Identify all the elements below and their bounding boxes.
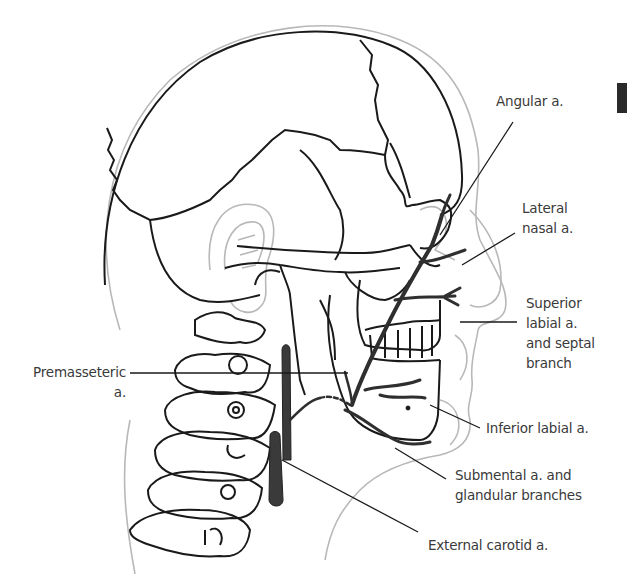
skull-outline [104,32,462,557]
label-superior-labial-line4: branch [526,353,572,373]
label-submental-line2: glandular branches [455,485,582,505]
inferior-labial-branch [365,380,425,398]
label-premasseteric-line1: Premasseteric [14,362,126,382]
label-superior-labial-line1: Superior [526,293,582,313]
internal-carotid-artery [282,345,291,460]
carotid-to-facial [290,398,320,420]
label-angular-artery: Angular a. [496,91,563,111]
facial-artery-main [352,215,442,405]
leader-lateral-nasal [462,233,515,265]
label-external-carotid-artery: External carotid a. [428,535,548,555]
label-inferior-labial-artery: Inferior labial a. [486,418,589,438]
label-lateral-nasal-line2: nasal a. [522,218,573,238]
arteries [269,195,465,506]
submental-branch [345,410,430,444]
leader-external-carotid [282,460,418,532]
page-edge-tab-marker [617,83,627,113]
leader-submental [395,448,446,479]
label-premasseteric-line2: a. [14,382,126,402]
label-superior-labial-line3: and septal [526,333,595,353]
external-carotid-artery [269,432,283,507]
label-lateral-nasal-line1: Lateral [522,198,568,218]
label-superior-labial-line2: labial a. [526,313,577,333]
premasseteric-branch [345,372,352,405]
label-submental-line1: Submental a. and [455,465,571,485]
